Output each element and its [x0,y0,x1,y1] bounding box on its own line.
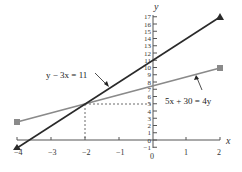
y-tick-label: 15 [144,28,152,36]
triangle-marker-icon [216,13,224,20]
y-tick-label: 14 [144,35,152,43]
y-tick-label: 3 [148,115,152,123]
x-tick-label: −1 [116,148,125,157]
y-tick-label: 1 [148,129,152,137]
y-tick-label: −1 [144,144,152,152]
equation-label-2: 5x + 30 = 4y [165,96,212,106]
x-axis-title: x [225,135,231,146]
y-tick-label: 17 [144,13,152,21]
y-tick-label: 0 [148,137,152,145]
x-axis [17,137,220,140]
y-tick-label: 16 [144,21,152,29]
x-tick-label: 1 [184,148,188,157]
x-tick-label: 0 [150,152,154,161]
intersection-guides [85,104,153,140]
x-tick-label: 2 [217,148,221,157]
x-tick-label: −2 [82,148,91,157]
y-axis-title: y [153,1,159,12]
chart: −101234567891011121314151617 −4 −3 −2 −1… [0,0,242,172]
y-tick-label: 9 [148,71,152,79]
x-tick-label: −3 [48,148,57,157]
y-tick-label: 8 [148,79,152,87]
square-marker-icon [14,119,20,125]
square-marker-icon [217,65,223,71]
series-line-y-minus-3x-eq-11 [13,13,224,150]
y-tick-label: 13 [144,42,152,50]
y-tick-label: 6 [148,93,152,101]
y-axis-ticks: −101234567891011121314151617 [144,13,157,152]
y-tick-label: 12 [144,50,152,58]
x-tick-label: −4 [14,148,23,157]
equation-label-1: y − 3x = 11 [46,70,87,80]
y-tick-label: 2 [148,122,152,130]
y-tick-label: 4 [148,108,152,116]
